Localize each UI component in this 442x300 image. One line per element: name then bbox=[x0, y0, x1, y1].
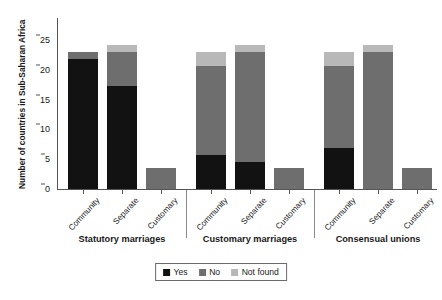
y-tick-0: 0 bbox=[45, 184, 57, 194]
x-axis-line bbox=[57, 189, 437, 190]
legend-item-no[interactable]: No bbox=[199, 267, 221, 277]
x-tick-mark bbox=[161, 190, 162, 194]
legend-swatch-icon bbox=[199, 269, 206, 276]
x-tick-mark bbox=[339, 190, 340, 194]
segment-yes bbox=[324, 148, 354, 189]
segment-no bbox=[146, 168, 176, 189]
x-axis-label-community-6: Community bbox=[323, 196, 358, 232]
bar-statutory-marriages-separate bbox=[107, 45, 137, 189]
plot-area: 0 5 10 15 20 25 CommunitySeparateCustoma… bbox=[57, 18, 437, 190]
bar-statutory-marriages-community bbox=[68, 52, 98, 189]
x-axis-label-customary-2: Customary bbox=[146, 196, 180, 231]
segment-no bbox=[235, 52, 265, 161]
y-tick-label: 20 bbox=[40, 65, 50, 75]
legend-swatch-icon bbox=[231, 269, 238, 276]
x-axis-label-customary-5: Customary bbox=[274, 196, 308, 231]
bar-chart-figure: Number of countries in Sub-Saharan Afric… bbox=[0, 0, 442, 300]
bar-consensual-unions-customary bbox=[402, 168, 432, 189]
y-axis-title: Number of countries in Sub-Saharan Afric… bbox=[18, 9, 26, 199]
y-tick-mark bbox=[36, 35, 40, 36]
y-tick-label: 15 bbox=[40, 95, 50, 105]
segment-not-found bbox=[196, 52, 226, 66]
bar-consensual-unions-community bbox=[324, 52, 354, 189]
y-tick-10: 10 bbox=[40, 124, 57, 134]
legend-label: Yes bbox=[174, 267, 188, 277]
x-axis-label-separate-1: Separate bbox=[111, 196, 140, 226]
bar-customary-marriages-customary bbox=[274, 168, 304, 189]
segment-yes bbox=[196, 155, 226, 189]
y-tick-label: 5 bbox=[45, 154, 50, 164]
bar-statutory-marriages-customary bbox=[146, 168, 176, 189]
y-tick-mark bbox=[36, 64, 40, 65]
y-tick-20: 20 bbox=[40, 65, 57, 75]
y-tick-label: 10 bbox=[40, 124, 50, 134]
x-tick-mark bbox=[417, 190, 418, 194]
segment-no bbox=[363, 52, 393, 189]
x-tick-mark bbox=[250, 190, 251, 194]
segment-not-found bbox=[235, 45, 265, 52]
segment-no bbox=[107, 52, 137, 86]
y-tick-mark bbox=[36, 124, 40, 125]
bar-customary-marriages-separate bbox=[235, 45, 265, 189]
x-tick-mark bbox=[289, 190, 290, 194]
segment-no bbox=[402, 168, 432, 189]
chart-legend: YesNoNot found bbox=[155, 263, 287, 281]
legend-label: Not found bbox=[242, 267, 279, 277]
y-tick-label: 0 bbox=[45, 184, 50, 194]
legend-label: No bbox=[209, 267, 220, 277]
segment-yes bbox=[235, 162, 265, 189]
x-axis-label-separate-4: Separate bbox=[239, 196, 268, 226]
y-tick-mark bbox=[41, 154, 45, 155]
group-separator-2 bbox=[314, 190, 315, 238]
y-tick-label: 25 bbox=[40, 35, 50, 45]
y-tick-mark bbox=[36, 94, 40, 95]
x-tick-mark bbox=[122, 190, 123, 194]
x-axis-label-separate-7: Separate bbox=[367, 196, 396, 226]
x-tick-mark bbox=[211, 190, 212, 194]
segment-no bbox=[196, 66, 226, 155]
x-axis-label-community-3: Community bbox=[195, 196, 230, 232]
segment-no bbox=[274, 168, 304, 189]
x-tick-mark bbox=[83, 190, 84, 194]
segment-yes bbox=[107, 86, 137, 189]
segment-not-found bbox=[363, 45, 393, 52]
legend-swatch-icon bbox=[163, 269, 170, 276]
legend-item-not-found[interactable]: Not found bbox=[231, 267, 279, 277]
group-label-statutory-marriages: Statutory marriages bbox=[79, 234, 166, 244]
legend-item-yes[interactable]: Yes bbox=[163, 267, 188, 277]
x-axis-label-customary-8: Customary bbox=[402, 196, 436, 231]
x-axis-label-community-0: Community bbox=[67, 196, 102, 232]
group-label-customary-marriages: Customary marriages bbox=[203, 234, 297, 244]
segment-no bbox=[324, 66, 354, 148]
bar-customary-marriages-community bbox=[196, 52, 226, 189]
group-separator-1 bbox=[186, 190, 187, 238]
y-tick-15: 15 bbox=[40, 95, 57, 105]
segment-not-found bbox=[107, 45, 137, 52]
bar-consensual-unions-separate bbox=[363, 45, 393, 189]
segment-not-found bbox=[324, 52, 354, 66]
y-tick-25: 25 bbox=[40, 35, 57, 45]
group-label-consensual-unions: Consensual unions bbox=[336, 234, 421, 244]
y-tick-5: 5 bbox=[45, 154, 57, 164]
y-tick-mark bbox=[41, 184, 45, 185]
segment-yes bbox=[68, 59, 98, 189]
x-tick-mark bbox=[378, 190, 379, 194]
segment-no bbox=[68, 52, 98, 59]
y-axis-line bbox=[57, 18, 58, 190]
